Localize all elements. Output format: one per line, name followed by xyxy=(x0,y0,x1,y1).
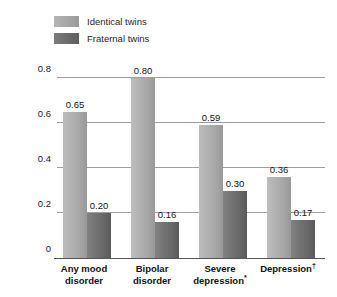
legend-label-fraternal-twins: Fraternal twins xyxy=(87,33,149,44)
y-tick-label-0-4: 0.4 xyxy=(38,154,51,164)
bar-group-bipolar-disorder: 0.80 0.16 xyxy=(131,78,191,258)
bar-value-fraternal-twins-bipolar-disorder: 0.16 xyxy=(158,210,177,220)
legend-item-identical-twins: Identical twins xyxy=(54,13,254,30)
bar-value-fraternal-twins-depression: 0.17 xyxy=(294,208,313,218)
y-tick-label-0-2: 0.2 xyxy=(38,199,51,209)
bar-value-identical-twins-bipolar-disorder: 0.80 xyxy=(134,66,153,76)
x-axis-category-label-depression: Depression† xyxy=(243,263,333,275)
plot-area: 0 0.2 0.4 0.6 0.8 0.65 0.20 0.80 0.16 0.… xyxy=(57,78,325,258)
bar-fraternal-twins-severe-depression[interactable]: 0.30 xyxy=(223,191,247,259)
legend-swatch-icon-identical-twins xyxy=(54,16,79,27)
cat-label-line1-text-depression: Depression xyxy=(260,263,312,274)
cat-label-line2-text-severe-depression: depression xyxy=(193,275,244,286)
chart-legend: Identical twins Fraternal twins xyxy=(54,13,254,47)
bar-identical-twins-severe-depression[interactable]: 0.59 xyxy=(199,125,223,258)
y-tick-label-0-8: 0.8 xyxy=(38,64,51,74)
bar-group-any-mood-disorder: 0.65 0.20 xyxy=(63,78,123,258)
y-tick-label-0-6: 0.6 xyxy=(38,109,51,119)
bar-fraternal-twins-any-mood-disorder[interactable]: 0.20 xyxy=(87,213,111,258)
bar-value-fraternal-twins-any-mood-disorder: 0.20 xyxy=(90,201,109,211)
bar-identical-twins-any-mood-disorder[interactable]: 0.65 xyxy=(63,112,87,258)
cat-label-line1-depression: Depression† xyxy=(243,263,333,275)
bar-group-severe-depression: 0.59 0.30 xyxy=(199,78,259,258)
bar-value-identical-twins-depression: 0.36 xyxy=(270,165,289,175)
bar-identical-twins-bipolar-disorder[interactable]: 0.80 xyxy=(131,78,155,258)
bar-value-identical-twins-severe-depression: 0.59 xyxy=(202,113,221,123)
legend-swatch-icon-fraternal-twins xyxy=(54,33,79,44)
y-tick-label-0: 0 xyxy=(46,244,51,254)
legend-item-fraternal-twins: Fraternal twins xyxy=(54,30,254,47)
footnote-marker-dagger: † xyxy=(312,262,316,269)
cat-label-line2-severe-depression: depression* xyxy=(175,275,265,287)
bar-fraternal-twins-bipolar-disorder[interactable]: 0.16 xyxy=(155,222,179,258)
bar-group-depression: 0.36 0.17 xyxy=(267,78,327,258)
bar-value-identical-twins-any-mood-disorder: 0.65 xyxy=(66,100,85,110)
bar-value-fraternal-twins-severe-depression: 0.30 xyxy=(226,179,245,189)
bar-fraternal-twins-depression[interactable]: 0.17 xyxy=(291,220,315,258)
legend-label-identical-twins: Identical twins xyxy=(87,16,147,27)
bar-identical-twins-depression[interactable]: 0.36 xyxy=(267,177,291,258)
